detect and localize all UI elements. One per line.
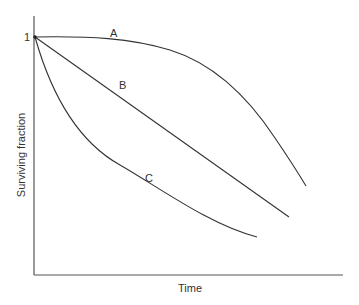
y-axis-title: Surviving fraction [15, 113, 27, 197]
label-a: A [110, 27, 118, 39]
x-axis-title: Time [178, 282, 202, 294]
label-c: C [145, 172, 153, 184]
curve-a [35, 37, 306, 186]
curve-b [35, 37, 289, 217]
y-tick-1: 1 [24, 31, 30, 43]
survival-chart: 1 A B C Time Surviving fraction [0, 0, 359, 305]
label-b: B [119, 79, 126, 91]
curve-c [35, 37, 257, 237]
origin-point [33, 35, 37, 39]
